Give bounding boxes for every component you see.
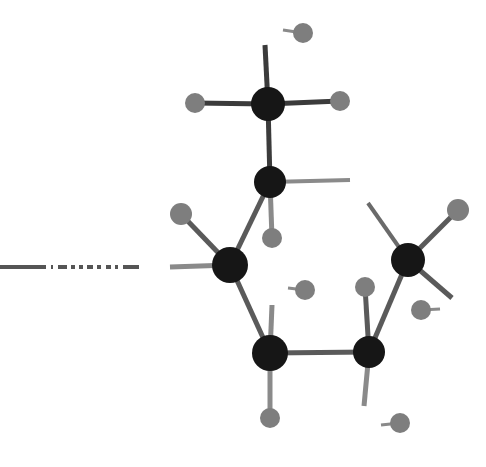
atom-h11-hydrogen xyxy=(411,300,431,320)
atom-h6-hydrogen xyxy=(295,280,315,300)
atom-c2-carbon xyxy=(254,166,286,198)
molecular-structure-figure xyxy=(0,0,486,467)
atom-h3-hydrogen xyxy=(293,23,313,43)
atom-c4-carbon xyxy=(252,335,288,371)
atom-c3-carbon xyxy=(212,247,248,283)
atom-h7-hydrogen xyxy=(355,277,375,297)
atom-h9-hydrogen xyxy=(390,413,410,433)
atom-h10-hydrogen xyxy=(447,199,469,221)
molecule-canvas xyxy=(0,0,486,467)
atom-c1-carbon xyxy=(251,87,285,121)
atom-h4-hydrogen xyxy=(262,228,282,248)
atom-c5-carbon xyxy=(353,336,385,368)
atom-c6-carbon xyxy=(391,243,425,277)
atom-h2-hydrogen xyxy=(330,91,350,111)
atom-h8-hydrogen xyxy=(260,408,280,428)
atom-h5-hydrogen xyxy=(170,203,192,225)
atom-h1-hydrogen xyxy=(185,93,205,113)
